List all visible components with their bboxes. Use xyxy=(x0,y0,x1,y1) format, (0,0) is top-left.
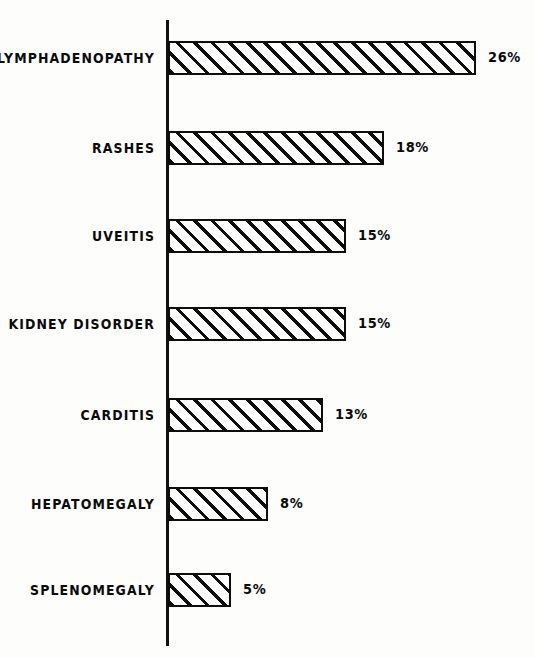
bar-row: LYMPHADENOPATHY 26% xyxy=(0,41,535,75)
bar-row: SPLENOMEGALY 5% xyxy=(0,573,535,607)
category-label: LYMPHADENOPATHY xyxy=(0,39,155,78)
bar-value-label: 13% xyxy=(335,396,368,433)
bar-rashes xyxy=(168,131,384,165)
bar-value-label: 5% xyxy=(243,571,266,608)
bar-value-label: 15% xyxy=(358,305,391,342)
bar-kidney-disorder xyxy=(168,307,346,341)
bar-row: KIDNEY DISORDER 15% xyxy=(0,307,535,341)
category-label: UVEITIS xyxy=(92,217,155,256)
category-label: RASHES xyxy=(92,129,155,168)
bar-lymphadenopathy xyxy=(168,41,476,75)
bar-row: HEPATOMEGALY 8% xyxy=(0,487,535,521)
bar-row: UVEITIS 15% xyxy=(0,219,535,253)
bar-value-label: 8% xyxy=(280,485,303,522)
bar-carditis xyxy=(168,398,323,432)
bar-splenomegaly xyxy=(168,573,231,607)
bar-value-label: 26% xyxy=(488,39,521,76)
bar-row: RASHES 18% xyxy=(0,131,535,165)
category-label: CARDITIS xyxy=(81,396,155,435)
bar-value-label: 15% xyxy=(358,217,391,254)
category-label: KIDNEY DISORDER xyxy=(9,305,155,344)
bar-hepatomegaly xyxy=(168,487,268,521)
bar-uveitis xyxy=(168,219,346,253)
category-label: SPLENOMEGALY xyxy=(30,571,155,610)
bar-row: CARDITIS 13% xyxy=(0,398,535,432)
horizontal-bar-chart: LYMPHADENOPATHY 26% RASHES 18% UVEITIS 1… xyxy=(0,0,535,658)
category-label: HEPATOMEGALY xyxy=(31,485,155,524)
bar-value-label: 18% xyxy=(396,129,429,166)
